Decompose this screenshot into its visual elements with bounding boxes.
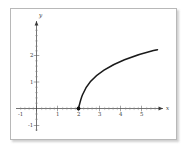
x-tick-label--1: -1: [18, 111, 23, 117]
y-tick-label--1: -1: [28, 122, 33, 128]
x-tick-label-3: 3: [98, 111, 101, 117]
x-axis-label: x: [166, 105, 169, 111]
label-layer: -1 1 2 3 4 5 2 1 -1 x y: [0, 0, 188, 148]
y-tick-label-2: 2: [30, 52, 33, 58]
x-tick-label-5: 5: [140, 111, 143, 117]
x-tick-label-2: 2: [77, 111, 80, 117]
y-tick-label-1: 1: [30, 79, 33, 85]
x-tick-label-4: 4: [119, 111, 122, 117]
x-tick-label-1: 1: [56, 111, 59, 117]
figure-root: -1 1 2 3 4 5 2 1 -1 x y: [0, 0, 188, 148]
y-axis-label: y: [39, 12, 42, 18]
